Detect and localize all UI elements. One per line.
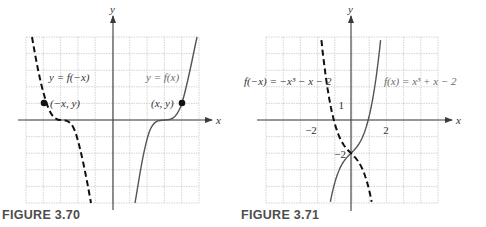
label-y-equals-f-x: y = f(x) [145,71,179,84]
figure-3-70: x y y = f(−x) y = f(x) (−x, y) (x, y) [18,3,221,210]
label-point-neg-x-y: (−x, y) [50,97,80,110]
tick-label-y-neg2: −2 [334,148,346,160]
label-f-neg-x-equation: f(−x) = −x³ − x − 2 [244,75,332,88]
point-neg-x-y [41,100,48,107]
figures-canvas: x y y = f(−x) y = f(x) (−x, y) (x, y) x … [0,0,486,227]
point-x-y [179,100,186,107]
y-axis-label-fig2: y [347,3,353,15]
label-point-x-y: (x, y) [151,97,174,110]
tick-label-x-2: 2 [383,124,389,136]
caption-figure-3-70: FIGURE 3.70 [2,208,80,222]
tick-label-y-1: 1 [339,99,345,111]
x-axis-label-fig1: x [215,114,221,126]
x-axis-label-fig2: x [455,114,461,126]
caption-figure-3-71: FIGURE 3.71 [241,208,319,222]
figure-3-71: x y −2 2 1 −2 f(−x) = −x³ − x − 2 f(x) =… [244,3,461,211]
y-axis-label-fig1: y [109,3,115,15]
label-f-x-equation: f(x) = x³ + x − 2 [384,75,457,88]
curve-f-of-x-fig2 [330,40,380,202]
label-y-equals-f-neg-x: y = f(−x) [48,71,90,84]
curve-f-of-neg-x-fig2 [321,40,371,202]
tick-label-x-neg2: −2 [305,124,317,136]
